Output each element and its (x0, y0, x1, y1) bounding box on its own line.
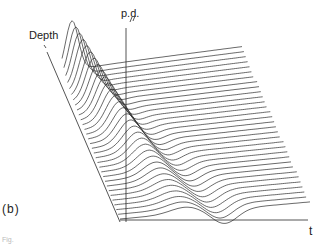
waveform-trace (77, 71, 259, 110)
waveform-trace (109, 172, 297, 192)
waveform-trace (101, 150, 287, 172)
waveform-trace (99, 144, 285, 167)
waveform-trace (75, 65, 257, 106)
waveform-trace (81, 83, 263, 120)
waveform-trace (64, 27, 244, 71)
waveform-trace (70, 46, 250, 89)
waveform-trace (98, 138, 284, 162)
waveform-trace (94, 126, 278, 153)
waveform-trace (68, 40, 248, 83)
waveform-traces (62, 21, 310, 224)
depth-axis-line (47, 52, 120, 222)
pd-axis-label: p.d. (121, 8, 139, 19)
panel-label: (b) (2, 203, 20, 215)
waveform-trace (105, 162, 291, 181)
waveform-trace (111, 177, 299, 197)
time-axis-label: t (309, 225, 312, 237)
waveform-trace (103, 156, 289, 177)
waveform-trace (90, 114, 274, 144)
depth-axis-dash (44, 45, 46, 48)
waveform-trace (66, 33, 246, 75)
caption-fragment: Fig. (2, 236, 14, 243)
waveform-trace (88, 108, 272, 139)
waveform-trace (113, 182, 301, 202)
depth-axis-label: Depth (29, 30, 58, 41)
